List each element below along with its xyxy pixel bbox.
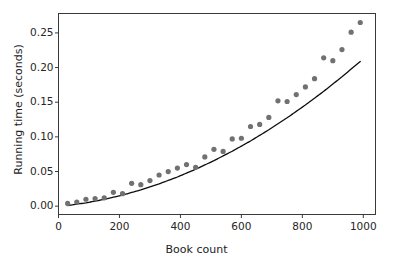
scatter-point <box>147 178 152 183</box>
scatter-point <box>257 122 262 127</box>
scatter-point <box>166 169 171 174</box>
scatter-point <box>120 191 125 196</box>
scatter-point <box>358 20 363 25</box>
y-tick-label: 0.00 <box>0 199 54 211</box>
scatter-point <box>285 99 290 104</box>
scatter-point <box>339 47 344 52</box>
scatter-point <box>275 98 280 103</box>
scatter-point <box>211 147 216 152</box>
x-tick-label: 1000 <box>333 220 393 232</box>
scatter-point <box>175 165 180 170</box>
x-tick-label: 400 <box>150 220 210 232</box>
scatter-point <box>248 124 253 129</box>
scatter-point <box>184 162 189 167</box>
scatter-point <box>349 30 354 35</box>
scatter-point <box>321 55 326 60</box>
chart-figure: 020040060080010000.000.050.100.150.200.2… <box>0 0 393 266</box>
scatter-point <box>312 76 317 81</box>
scatter-point <box>266 115 271 120</box>
scatter-point <box>138 182 143 187</box>
scatter-point <box>330 58 335 63</box>
scatter-point <box>129 181 134 186</box>
scatter-point <box>74 199 79 204</box>
scatter-point <box>92 196 97 201</box>
scatter-point <box>303 84 308 89</box>
scatter-point <box>193 165 198 170</box>
y-tick-label: 0.15 <box>0 95 54 107</box>
scatter-point <box>83 197 88 202</box>
x-tick-label: 800 <box>272 220 332 232</box>
y-tick-label: 0.25 <box>0 26 54 38</box>
y-axis-label: Running time (seconds) <box>12 30 25 190</box>
axes-spines <box>59 14 376 215</box>
scatter-point <box>294 92 299 97</box>
scatter-point <box>111 190 116 195</box>
y-tick-label: 0.10 <box>0 130 54 142</box>
scatter-point <box>239 136 244 141</box>
y-tick-label: 0.05 <box>0 165 54 177</box>
scatter-point <box>202 154 207 159</box>
y-tick-label: 0.20 <box>0 61 54 73</box>
fit-line <box>68 61 361 205</box>
scatter-point <box>221 149 226 154</box>
x-tick-label: 0 <box>29 220 89 232</box>
scatter-point <box>102 195 107 200</box>
scatter-point <box>65 201 70 206</box>
x-axis-label: Book count <box>0 243 393 256</box>
axis-ticks <box>55 33 363 218</box>
scatter-point <box>230 136 235 141</box>
scatter-point <box>156 172 161 177</box>
x-tick-label: 600 <box>211 220 271 232</box>
x-tick-label: 200 <box>89 220 149 232</box>
scatter-points <box>65 20 363 206</box>
